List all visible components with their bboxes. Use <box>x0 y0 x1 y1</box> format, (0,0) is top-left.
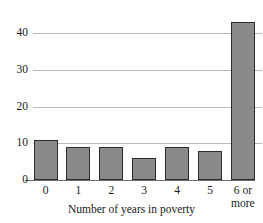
bar <box>34 140 58 180</box>
x-axis-tick-label: 4 <box>159 184 195 197</box>
y-axis-tick-label: 10 <box>17 137 29 149</box>
x-axis-tick-label-line: 6 or <box>225 184 261 197</box>
y-axis-tick-label: 40 <box>17 27 29 39</box>
bar <box>165 147 189 180</box>
bar <box>198 151 222 180</box>
x-axis-tick-label: 0 <box>28 184 64 197</box>
x-axis-tick-label-line: 1 <box>60 184 96 197</box>
y-axis-tick-label: 30 <box>17 64 29 76</box>
bar-chart: 010203040 0123456 ormore Number of years… <box>0 0 263 223</box>
x-axis-tick-label: 2 <box>93 184 129 197</box>
bar <box>99 147 123 180</box>
x-axis-tick-label-line: 3 <box>126 184 162 197</box>
x-axis-tick-label: 5 <box>192 184 228 197</box>
bar <box>132 158 156 180</box>
bars-group <box>33 0 263 181</box>
bar <box>66 147 90 180</box>
x-axis-tick-label: 3 <box>126 184 162 197</box>
bar <box>231 22 255 180</box>
x-axis-tick-label-line: 4 <box>159 184 195 197</box>
y-axis-tick-label: 20 <box>17 101 29 113</box>
x-axis-tick-label-line: 0 <box>28 184 64 197</box>
x-axis-title: Number of years in poverty <box>0 203 263 216</box>
x-axis-tick-label: 1 <box>60 184 96 197</box>
x-axis-tick-label-line: 5 <box>192 184 228 197</box>
x-axis-tick-label-line: 2 <box>93 184 129 197</box>
plot-area: 010203040 <box>33 0 263 181</box>
